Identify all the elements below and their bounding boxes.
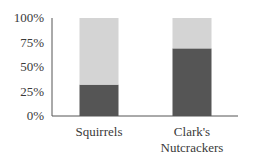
x-axis-labels: SquirrelsClark'sNutcrackers — [76, 124, 224, 155]
bar-segment-dark — [173, 48, 212, 116]
y-tick-label: 75% — [20, 35, 44, 50]
bar-segment-light — [173, 18, 212, 48]
y-tick-label: 100% — [14, 10, 45, 25]
bar-segment-dark — [80, 85, 119, 116]
y-tick-label: 50% — [20, 59, 44, 74]
bars — [80, 18, 212, 116]
bar-segment-light — [80, 18, 119, 85]
x-category-label: Nutcrackers — [161, 140, 224, 155]
stacked-bar-chart: 0%25%50%75%100% SquirrelsClark'sNutcrack… — [0, 0, 253, 161]
y-tick-label: 0% — [27, 108, 45, 123]
y-axis-ticks: 0%25%50%75%100% — [14, 10, 45, 123]
x-category-label: Clark's — [174, 124, 210, 139]
y-tick-label: 25% — [20, 84, 44, 99]
x-category-label: Squirrels — [76, 124, 123, 139]
